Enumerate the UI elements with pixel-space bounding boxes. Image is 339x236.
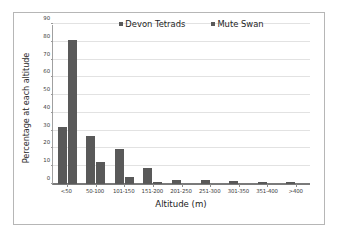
x-axis-tick-mark: [296, 184, 297, 187]
bar: [229, 181, 238, 184]
y-axis-tick-label: 80: [28, 33, 50, 39]
x-axis-tick-label: 50-100: [81, 188, 110, 194]
bar-group: [82, 25, 111, 184]
bar: [286, 182, 295, 184]
x-axis-tick-label: <50: [52, 188, 81, 194]
y-axis-tick-label: 30: [28, 122, 50, 128]
bar-group: [167, 25, 196, 184]
bar: [86, 136, 95, 184]
y-axis-tick-label: 40: [28, 104, 50, 110]
y-axis-tick-label: 50: [28, 86, 50, 92]
bar: [172, 180, 181, 184]
legend-swatch-icon: [211, 22, 215, 26]
x-axis-tick-mark: [267, 184, 268, 187]
x-axis-tick-label: >400: [281, 188, 310, 194]
plot-area: 0102030405060708090: [52, 25, 310, 185]
bar-group: [196, 25, 225, 184]
x-axis-tick-mark: [96, 184, 97, 187]
x-axis-tick-label: 301-350: [224, 188, 253, 194]
legend-label: Devon Tetrads: [125, 19, 185, 29]
y-axis-tick-label: 10: [28, 157, 50, 163]
bar-series-container: [53, 25, 310, 184]
bar-group: [53, 25, 82, 184]
x-axis-tick-label: 251-300: [195, 188, 224, 194]
bar: [115, 149, 124, 184]
x-axis-tick-labels: <5050-100101-150151-200201-250251-300301…: [52, 188, 310, 194]
x-axis-title: Altitude (m): [52, 199, 310, 209]
y-axis-tick-label: 20: [28, 139, 50, 145]
bar: [68, 40, 77, 184]
bar-group: [139, 25, 168, 184]
legend-item-devon-tetrads: Devon Tetrads: [119, 19, 185, 29]
y-axis-tick-label: 90: [28, 15, 50, 21]
bar-group: [253, 25, 282, 184]
legend-swatch-icon: [119, 22, 123, 26]
y-axis-tick-mark: [51, 23, 53, 24]
bar-group: [110, 25, 139, 184]
y-axis-tick-label: 0: [28, 175, 50, 181]
x-axis-tick-mark: [153, 184, 154, 187]
chart-figure: Percentage at each altitude 010203040506…: [13, 12, 325, 225]
x-axis-tick-label: 351-400: [253, 188, 282, 194]
x-axis-tick-label: 101-150: [109, 188, 138, 194]
legend-item-mute-swan: Mute Swan: [211, 19, 263, 29]
bar: [201, 180, 210, 184]
bar: [125, 177, 134, 184]
x-axis-tick-mark: [182, 184, 183, 187]
bar: [258, 182, 267, 184]
x-axis-tick-label: 201-250: [167, 188, 196, 194]
legend-label: Mute Swan: [217, 19, 263, 29]
chart-legend: Devon Tetrads Mute Swan: [84, 19, 299, 29]
x-axis-tick-label: 151-200: [138, 188, 167, 194]
y-axis-tick-label: 70: [28, 51, 50, 57]
bar: [96, 162, 105, 184]
y-axis-tick-label: 60: [28, 68, 50, 74]
x-axis-tick-mark: [124, 184, 125, 187]
x-axis-tick-mark: [210, 184, 211, 187]
x-axis-tick-mark: [239, 184, 240, 187]
bar-group: [282, 25, 311, 184]
bar: [58, 127, 67, 184]
bar-group: [224, 25, 253, 184]
bar: [143, 168, 152, 184]
bar: [153, 182, 162, 184]
x-axis-tick-mark: [67, 184, 68, 187]
